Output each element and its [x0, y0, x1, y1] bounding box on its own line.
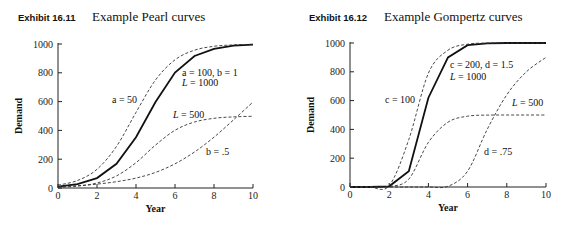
x-tick-label: 6 [465, 189, 470, 200]
y-tick-label: 1000 [33, 39, 53, 50]
curve-annotation: c = 100 [385, 94, 415, 105]
series-line-1 [58, 44, 253, 185]
series-line-1 [350, 43, 546, 189]
left-chart-title: Example Pearl curves [92, 9, 205, 24]
curve-annotation: L = 500 [172, 109, 204, 120]
y-tick-label: 800 [330, 66, 345, 77]
y-axis-label: Demand [13, 98, 24, 135]
x-tick-label: 4 [426, 189, 431, 200]
gompertz-chart: 020040060080010000246810YearDemandc = 10… [305, 38, 551, 214]
x-tick-label: 10 [248, 190, 258, 201]
curve-annotation: L = 1000 [449, 71, 486, 82]
y-tick-label: 200 [330, 153, 345, 164]
curve-annotation: b = .5 [206, 146, 229, 157]
x-tick-label: 0 [348, 189, 353, 200]
y-tick-label: 0 [48, 183, 53, 194]
y-tick-label: 600 [38, 96, 53, 107]
y-tick-label: 600 [330, 95, 345, 106]
figure: Exhibit 16.11 Example Pearl curves Exhib… [0, 0, 567, 227]
series-line-2 [350, 115, 546, 187]
x-axis-label: Year [146, 203, 167, 214]
curve-annotation: L = 1000 [181, 77, 218, 88]
charts-canvas: Exhibit 16.11 Example Pearl curves Exhib… [0, 0, 567, 227]
right-chart-title: Example Gompertz curves [384, 9, 523, 24]
x-tick-label: 2 [95, 190, 100, 201]
x-tick-label: 10 [541, 189, 551, 200]
curve-annotation: d = .75 [484, 146, 512, 157]
y-tick-label: 800 [38, 67, 53, 78]
series-line-3 [58, 102, 253, 187]
y-tick-label: 200 [38, 154, 53, 165]
x-axis-label: Year [438, 202, 459, 213]
pearl-chart: 020040060080010000246810YearDemanda = 50… [13, 39, 258, 215]
x-tick-label: 0 [56, 190, 61, 201]
y-tick-label: 0 [340, 182, 345, 193]
y-axis-label: Demand [305, 97, 316, 134]
right-exhibit-label: Exhibit 16.12 [309, 12, 367, 23]
x-tick-label: 8 [504, 189, 509, 200]
x-tick-label: 2 [387, 189, 392, 200]
y-tick-label: 400 [38, 125, 53, 136]
series-line-0 [58, 45, 253, 187]
curve-annotation: L = 500 [511, 97, 543, 108]
x-tick-label: 8 [212, 190, 217, 201]
y-tick-label: 400 [330, 124, 345, 135]
curve-annotation: a = 50 [112, 94, 137, 105]
curve-annotation: c = 200, d = 1.5 [450, 59, 513, 70]
y-tick-label: 1000 [325, 38, 345, 49]
x-tick-label: 6 [173, 190, 178, 201]
left-exhibit-label: Exhibit 16.11 [18, 12, 76, 23]
x-tick-label: 4 [134, 190, 139, 201]
